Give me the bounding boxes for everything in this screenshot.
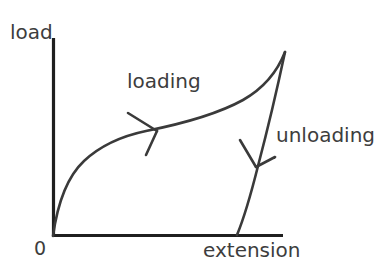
y-axis-label: load bbox=[10, 22, 53, 42]
unloading-annotation-label: unloading bbox=[276, 125, 375, 145]
loading-annotation-label: loading bbox=[127, 71, 201, 91]
origin-label: 0 bbox=[34, 239, 46, 258]
x-axis-label: extension bbox=[203, 240, 301, 260]
load-extension-figure: load 0 extension loading unloading bbox=[0, 0, 376, 276]
